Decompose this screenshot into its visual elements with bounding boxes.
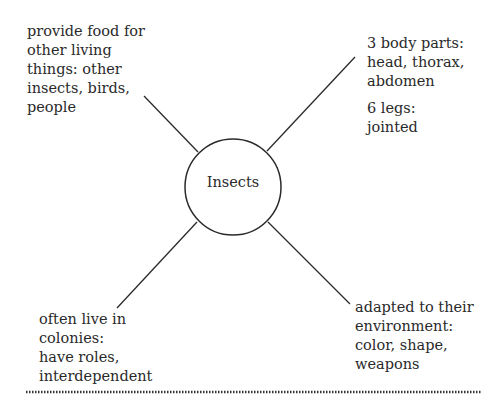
text-line: people — [27, 98, 145, 117]
text-line: insects, birds, — [27, 79, 145, 98]
node-top-left: provide food for other living things: ot… — [27, 22, 145, 117]
text-line: provide food for — [27, 22, 145, 41]
connector-top-right — [267, 57, 355, 151]
text-line: head, thorax, — [367, 53, 464, 72]
connector-bottom-left — [117, 222, 197, 308]
node-bottom-left: often live in colonies: have roles, inte… — [39, 310, 152, 386]
text-line: jointed — [367, 118, 464, 137]
text-line: have roles, — [39, 348, 152, 367]
text-line: colonies: — [39, 329, 152, 348]
center-label: Insects — [185, 174, 281, 190]
text-line: things: other — [27, 60, 145, 79]
connector-top-left — [144, 96, 198, 152]
text-line: environment: — [355, 317, 474, 336]
text-line: 3 body parts: — [367, 34, 464, 53]
text-line: weapons — [355, 355, 474, 374]
node-bottom-right: adapted to their environment: color, sha… — [355, 298, 474, 374]
text-line: abdomen — [367, 72, 464, 91]
connector-bottom-right — [268, 222, 350, 304]
text-line: 6 legs: — [367, 99, 464, 118]
text-line: other living — [27, 41, 145, 60]
text-line: often live in — [39, 310, 152, 329]
node-top-right: 3 body parts: head, thorax, abdomen 6 le… — [367, 34, 464, 137]
text-line: adapted to their — [355, 298, 474, 317]
text-line: interdependent — [39, 367, 152, 386]
text-line: color, shape, — [355, 336, 474, 355]
